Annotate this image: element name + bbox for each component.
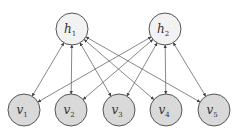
edge-h1-v2 [71,45,72,94]
node-circle [8,94,40,126]
edge-h1-v5 [86,37,200,102]
visible-node-v2: v2 [55,94,87,126]
node-circle [149,13,181,45]
node-circle [150,94,182,126]
edge-h2-v4 [165,45,166,94]
edge-h2-v3 [127,43,157,96]
hidden-node-h1: h1 [56,13,88,45]
edge-h2-v5 [173,43,205,97]
visible-node-v3: v3 [103,94,135,126]
edges-layer [32,37,206,102]
node-circle [56,13,88,45]
edge-h2-v1 [38,37,151,102]
node-circle [55,94,87,126]
edge-h1-v1 [32,43,64,96]
node-circle [198,94,230,126]
hidden-node-h2: h2 [149,13,181,45]
visible-node-v1: v1 [8,94,40,126]
visible-node-v4: v4 [150,94,182,126]
node-circle [103,94,135,126]
rbm-diagram: h1h2v1v2v3v4v5 [0,0,239,138]
visible-node-v5: v5 [198,94,230,126]
edge-h1-v3 [80,43,111,96]
